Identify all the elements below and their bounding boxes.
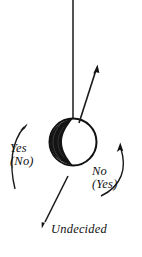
- label-no-text: No: [92, 164, 107, 178]
- label-yes-text: Yes: [10, 141, 27, 155]
- diagram-canvas: [0, 0, 142, 257]
- label-no-parenthetical-text: (No): [10, 155, 34, 168]
- label-no-yes: No (Yes): [92, 165, 118, 192]
- pendulum-diagram: Yes (No) No (Yes) Undecided: [0, 0, 142, 257]
- arrow-up-right: [79, 65, 99, 124]
- arrow-down-left-undecided: [42, 176, 68, 229]
- label-yes-no: Yes (No): [10, 142, 34, 169]
- label-undecided: Undecided: [51, 223, 107, 236]
- label-yes-parenthetical-text: (Yes): [92, 178, 118, 191]
